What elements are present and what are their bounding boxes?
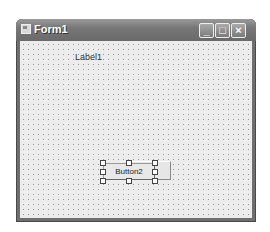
resize-handle-nw[interactable] bbox=[100, 160, 106, 166]
title-bar[interactable]: Form1 _ □ × bbox=[16, 19, 256, 41]
window-title: Form1 bbox=[34, 23, 68, 35]
form-designer-window: Form1 _ □ × Label1 Button2 bbox=[16, 19, 256, 222]
maximize-button[interactable]: □ bbox=[215, 23, 230, 38]
close-button[interactable]: × bbox=[231, 23, 246, 38]
form-icon bbox=[21, 24, 31, 34]
resize-handle-se[interactable] bbox=[152, 178, 158, 184]
resize-handle-n[interactable] bbox=[126, 160, 132, 166]
resize-handle-sw[interactable] bbox=[100, 178, 106, 184]
resize-handle-e[interactable] bbox=[152, 169, 158, 175]
resize-handle-s[interactable] bbox=[126, 178, 132, 184]
minimize-button[interactable]: _ bbox=[199, 23, 214, 38]
form-design-surface[interactable]: Label1 Button2 bbox=[20, 41, 252, 218]
label1-control[interactable]: Label1 bbox=[75, 52, 102, 62]
resize-handle-ne[interactable] bbox=[152, 160, 158, 166]
resize-handle-w[interactable] bbox=[100, 169, 106, 175]
